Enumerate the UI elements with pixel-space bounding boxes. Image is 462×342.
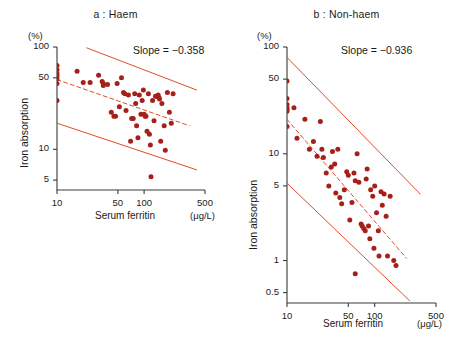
- data-point: [105, 82, 110, 87]
- data-point: [302, 117, 307, 122]
- figure-iron-absorption: a : Haem (%) Slope = −0.358 Iron absorpt…: [0, 0, 462, 342]
- regression-line: [287, 119, 406, 258]
- x-tick-label: 10: [267, 310, 307, 321]
- data-point: [131, 116, 136, 121]
- chart-panel-haem: a : Haem (%) Slope = −0.358 Iron absorpt…: [0, 0, 231, 342]
- data-point: [356, 180, 361, 185]
- data-point: [391, 258, 396, 263]
- data-point: [148, 143, 153, 148]
- data-point: [162, 123, 167, 128]
- data-point: [163, 148, 168, 153]
- data-point: [388, 194, 393, 199]
- data-point: [134, 123, 139, 128]
- ci-lower-line: [287, 183, 410, 301]
- data-point: [143, 114, 148, 119]
- data-point: [384, 214, 389, 219]
- data-point: [321, 155, 326, 160]
- data-point: [159, 101, 164, 106]
- y-tick-label: 0.5: [235, 286, 279, 297]
- data-point: [311, 139, 316, 144]
- data-point: [372, 183, 377, 188]
- data-point: [126, 92, 131, 97]
- data-point: [367, 236, 372, 241]
- y-tick-label: 5: [5, 173, 49, 184]
- y-tick-label: 100: [5, 40, 49, 51]
- data-point: [351, 171, 356, 176]
- x-tick-label: 10: [37, 197, 77, 208]
- data-point: [88, 80, 93, 85]
- y-tick-label: 100: [235, 40, 279, 51]
- data-point: [370, 194, 375, 199]
- data-point: [342, 187, 347, 192]
- x-tick-label: 100: [355, 310, 395, 321]
- data-point: [171, 91, 176, 96]
- data-point: [385, 254, 390, 259]
- data-point: [128, 139, 133, 144]
- data-point: [318, 119, 323, 124]
- data-point: [96, 73, 101, 78]
- data-point: [337, 195, 342, 200]
- data-point: [374, 210, 379, 215]
- data-point: [137, 92, 142, 97]
- data-point: [285, 96, 290, 101]
- data-point: [115, 81, 120, 86]
- data-point: [355, 151, 360, 156]
- data-point: [55, 76, 60, 81]
- y-tick-label: 50: [5, 71, 49, 82]
- data-point: [339, 201, 344, 206]
- data-point: [132, 91, 137, 96]
- data-point: [394, 263, 399, 268]
- data-point: [152, 118, 157, 123]
- data-point: [366, 224, 371, 229]
- data-point: [113, 114, 118, 119]
- data-point: [169, 121, 174, 126]
- data-point: [371, 246, 376, 251]
- y-tick-label: 10: [235, 147, 279, 158]
- data-point: [335, 147, 340, 152]
- data-point: [353, 271, 358, 276]
- data-point: [332, 162, 337, 167]
- data-point: [140, 98, 145, 103]
- data-point: [333, 190, 338, 195]
- data-point: [141, 87, 146, 92]
- x-tick-label: 100: [124, 197, 164, 208]
- data-point: [124, 108, 129, 113]
- data-point: [135, 135, 140, 140]
- data-point: [376, 228, 381, 233]
- data-point: [146, 91, 151, 96]
- data-point: [319, 147, 324, 152]
- data-point: [285, 124, 290, 129]
- data-point: [147, 132, 152, 137]
- data-point: [324, 171, 329, 176]
- data-point: [119, 75, 124, 80]
- data-point: [81, 80, 86, 85]
- y-tick-label: 50: [235, 72, 279, 83]
- data-point: [158, 139, 163, 144]
- data-point: [294, 136, 299, 141]
- y-tick-label: 1: [235, 254, 279, 265]
- ci-lower-line: [57, 123, 197, 170]
- y-tick-label: 5: [235, 179, 279, 190]
- data-point: [117, 104, 122, 109]
- data-point: [377, 254, 382, 259]
- data-point: [330, 149, 335, 154]
- data-point: [365, 166, 370, 171]
- data-point: [291, 105, 296, 110]
- data-point: [368, 187, 373, 192]
- y-tick-label: 10: [5, 142, 49, 153]
- data-point: [363, 228, 368, 233]
- chart-panel-non-haem: b : Non-haem (%) Slope = −0.936 Iron abs…: [231, 0, 462, 342]
- data-point: [315, 154, 320, 159]
- panel-a-plot: [0, 0, 231, 342]
- data-point: [55, 98, 60, 103]
- data-point: [149, 174, 154, 179]
- data-point: [55, 81, 60, 86]
- x-tick-label: 500: [185, 197, 225, 208]
- data-point: [165, 90, 170, 95]
- data-point: [75, 69, 80, 74]
- data-point: [150, 98, 155, 103]
- data-point: [285, 109, 290, 114]
- data-point: [133, 101, 138, 106]
- data-point: [380, 203, 385, 208]
- regression-line: [57, 80, 189, 126]
